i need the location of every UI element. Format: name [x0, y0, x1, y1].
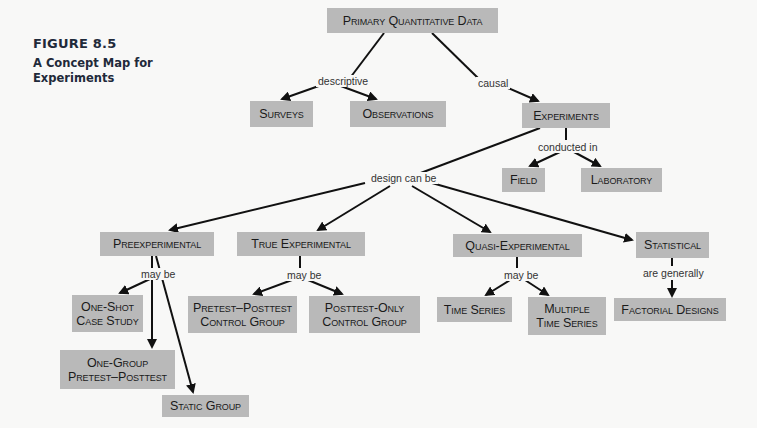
node-multiple-time-series: Multiple Time Series	[528, 297, 606, 335]
node-one-shot-case-study: One-Shot Case Study	[72, 295, 143, 332]
node-laboratory: Laboratory	[581, 168, 662, 192]
link-label-causal: causal	[476, 77, 510, 89]
node-pretest-posttest-control-group: Pretest–Posttest Control Group	[188, 296, 297, 333]
link-label-design-can-be: design can be	[369, 172, 438, 184]
link-label-descriptive: descriptive	[316, 75, 370, 87]
node-static-group: Static Group	[162, 395, 249, 417]
node-field: Field	[502, 168, 545, 192]
node-factorial-designs: Factorial Designs	[614, 298, 726, 321]
node-experiments: Experiments	[522, 103, 610, 128]
link-label-are-generally: are generally	[641, 267, 706, 279]
node-time-series: Time Series	[437, 297, 512, 322]
node-observations: Observations	[350, 101, 446, 127]
node-posttest-only-control-group: Posttest-Only Control Group	[309, 296, 420, 333]
node-preexperimental: Preexperimental	[100, 232, 214, 256]
link-label-may-be-true: may be	[285, 269, 323, 281]
link-label-may-be-pre: may be	[139, 268, 177, 280]
node-surveys: Surveys	[250, 101, 313, 127]
node-true-experimental: True Experimental	[237, 232, 365, 256]
node-primary-quantitative-data: Primary Quantitative Data	[327, 8, 498, 33]
link-label-may-be-quasi: may be	[502, 269, 540, 281]
node-one-group-pretest-posttest: One-Group Pretest–Posttest	[60, 350, 175, 389]
link-label-conducted-in: conducted in	[536, 141, 600, 153]
node-statistical: Statistical	[636, 232, 709, 258]
node-quasi-experimental: Quasi-Experimental	[453, 234, 582, 257]
